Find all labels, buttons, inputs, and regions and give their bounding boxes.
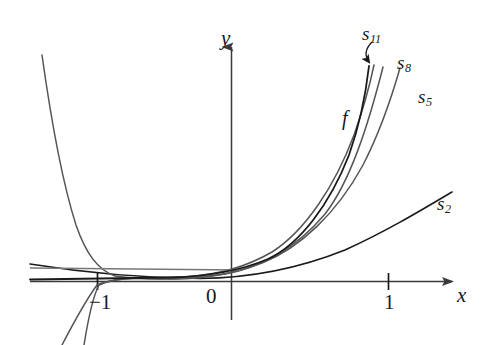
- y-axis-label: y: [221, 28, 230, 49]
- curve-label-s11-base: s: [362, 23, 369, 44]
- curve-label-f: f: [342, 108, 348, 128]
- x-tick-label-one: 1: [384, 292, 395, 313]
- x-tick-label-minus-one: −1: [89, 292, 111, 313]
- curve-label-s8: s8: [397, 53, 411, 74]
- x-axis-label: x: [457, 285, 466, 306]
- curve-label-s5-sub: 5: [426, 95, 432, 109]
- curve-label-s5: s5: [418, 87, 432, 108]
- taylor-series-figure: y x 0 −1 1 f s11 s8 s5 s2: [0, 0, 484, 345]
- origin-label: 0: [206, 286, 217, 307]
- curve-label-s8-sub: 8: [405, 61, 411, 75]
- curve-label-s8-base: s: [397, 52, 404, 73]
- plot-canvas: [0, 0, 484, 345]
- curve-label-s2: s2: [437, 194, 451, 215]
- curve-s11: [84, 65, 374, 345]
- curve-partial-sum-horizontal: [30, 268, 240, 270]
- curve-label-s11-sub: 11: [370, 32, 381, 46]
- curve-label-s11: s11: [362, 24, 381, 45]
- curve-label-s2-sub: 2: [445, 202, 451, 216]
- curve-label-s2-base: s: [437, 193, 444, 214]
- curve-label-s5-base: s: [418, 86, 425, 107]
- curve-f: [30, 66, 369, 280]
- curve-s8: [42, 55, 383, 279]
